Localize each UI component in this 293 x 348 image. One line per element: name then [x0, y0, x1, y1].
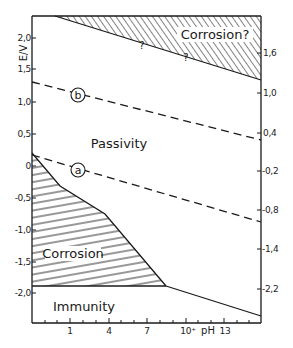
right-tick-label: -0,8 — [262, 205, 279, 215]
right-tick-label: -2,2 — [262, 284, 278, 294]
corrosion-uncertain-label: Corrosion? — [181, 27, 250, 42]
left-tick-label: 0,5 — [18, 129, 31, 139]
left-tick-label: 1,5 — [18, 64, 31, 74]
right-tick-label: -1,4 — [262, 244, 279, 254]
left-tick-label: -1,0 — [15, 225, 32, 235]
bottom-axis-ticks — [45, 318, 249, 323]
immunity-passivity-boundary-line — [166, 286, 261, 316]
bottom-tick-label: 4 — [106, 326, 112, 336]
left-tick-label: 1,0 — [18, 97, 32, 107]
bottom-tick-label: 10⁺ — [180, 326, 196, 336]
dashed-line-b — [32, 82, 261, 140]
line-b-label: b — [75, 89, 82, 102]
left-tick-label: -1,5 — [15, 257, 31, 267]
right-tick-label: 1,6 — [263, 48, 277, 58]
corrosion-region — [32, 153, 166, 286]
left-tick-label: -2,0 — [15, 288, 32, 298]
pourbaix-diagram: b a 2,0 1,5 1,0 0,5 0 -0,5 -1,0 -1,5 -2,… — [0, 0, 293, 348]
bottom-tick-label: 1 — [67, 326, 72, 336]
y-axis-label: E/V — [18, 45, 29, 62]
left-tick-label: 2,0 — [18, 33, 32, 43]
immunity-label: Immunity — [53, 299, 115, 314]
passivity-label: Passivity — [91, 136, 148, 151]
bottom-tick-label: 7 — [144, 326, 149, 336]
corrosion-label: Corrosion — [42, 246, 104, 261]
x-axis-label: pH — [201, 325, 215, 336]
right-tick-label: -0,2 — [262, 166, 278, 176]
right-tick-label: 1,0 — [263, 88, 277, 98]
left-tick-label: -0,5 — [15, 193, 31, 203]
line-a-label: a — [75, 164, 82, 177]
question-mark: ? — [183, 52, 188, 63]
left-tick-label: 0 — [26, 161, 32, 171]
question-mark: ? — [139, 40, 144, 51]
right-tick-label: 0,4 — [263, 128, 277, 138]
bottom-tick-label: 13 — [220, 326, 231, 336]
